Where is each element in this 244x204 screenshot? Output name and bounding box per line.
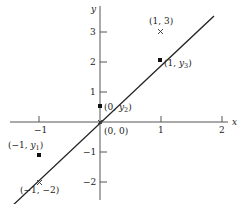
y-tick-label: −1 — [83, 147, 96, 157]
data-point-label: (−1, −2) — [20, 185, 59, 195]
cross-marker-1-3 — [158, 29, 163, 34]
data-point-label: (0, 0) — [104, 126, 128, 136]
x-tick-label: 1 — [158, 125, 164, 135]
least-squares-line-diagram: x y −1 1 2 3 2 1 −1 −2 (1, y3) (0, y2) (… — [0, 0, 244, 204]
y-tick-label: 2 — [90, 57, 96, 67]
x-tick-label: −1 — [34, 125, 47, 135]
y-tick-label: 3 — [90, 27, 96, 37]
y-tick-label: 1 — [90, 87, 96, 97]
line-point-label: (1, y3) — [164, 58, 192, 70]
line-point-marker — [158, 58, 162, 62]
data-point-label: (1, 3) — [149, 16, 173, 26]
line-point-label: (−1, y1) — [8, 140, 43, 152]
x-axis-label: x — [232, 117, 237, 127]
x-ticks: −1 1 2 — [34, 116, 225, 135]
line-point-marker — [98, 104, 102, 108]
x-tick-label: 2 — [219, 125, 225, 135]
line-point-label: (0, y2) — [104, 102, 132, 114]
y-tick-label: −2 — [83, 177, 96, 187]
y-axis-label: y — [90, 4, 97, 14]
line-point-marker — [37, 153, 41, 157]
